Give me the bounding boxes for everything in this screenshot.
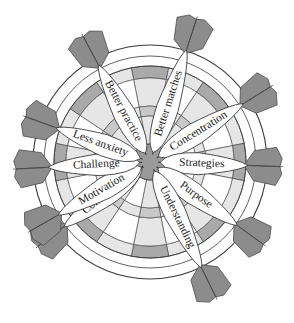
dart-point <box>141 159 143 160</box>
dart-point <box>152 152 153 154</box>
dartboard-diagram: Better practiceBetter matchesConcentrati… <box>0 0 294 323</box>
